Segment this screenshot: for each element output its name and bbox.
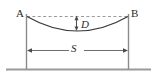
sag-arrowhead-down — [75, 26, 79, 31]
span-dimension-arrow — [27, 48, 128, 52]
span-arrowhead-left — [27, 48, 32, 52]
label-sag-d: D — [81, 19, 89, 30]
label-point-b: B — [131, 8, 138, 19]
span-arrowhead-right — [123, 48, 128, 52]
sag-dimension-arrow — [75, 16, 79, 31]
label-point-a: A — [16, 8, 24, 19]
sag-span-diagram: A B D S — [0, 0, 157, 84]
label-span-s: S — [71, 43, 77, 54]
